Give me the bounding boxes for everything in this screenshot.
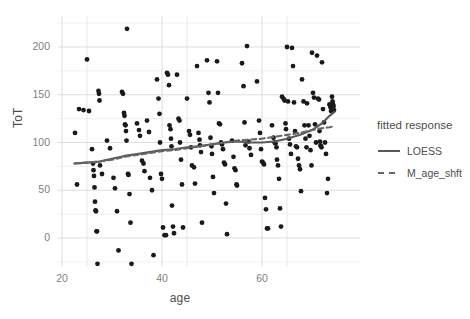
legend-item-loess[interactable]: LOESS <box>377 140 469 162</box>
data-point <box>147 130 152 135</box>
data-point <box>320 60 325 65</box>
data-point <box>319 145 324 150</box>
data-point <box>279 224 284 229</box>
data-point <box>212 191 217 196</box>
data-point <box>157 111 162 116</box>
data-point <box>205 58 210 63</box>
data-point <box>94 209 99 214</box>
data-point <box>126 173 131 178</box>
data-point <box>323 140 328 145</box>
data-point <box>305 101 310 106</box>
data-point <box>148 175 153 180</box>
x-tick-label: 60 <box>242 272 282 284</box>
data-point <box>123 123 128 128</box>
legend-title: fitted response <box>377 119 469 131</box>
data-point <box>296 156 301 161</box>
data-point <box>216 90 221 95</box>
data-point <box>317 97 322 102</box>
data-point <box>81 108 86 113</box>
data-point <box>160 176 165 181</box>
data-point <box>312 95 317 100</box>
data-point <box>128 220 133 225</box>
data-point <box>321 107 326 112</box>
data-point <box>286 99 291 104</box>
data-point <box>98 163 103 168</box>
dashed-line-icon <box>377 164 401 182</box>
data-point <box>179 157 184 162</box>
data-point <box>245 44 250 49</box>
data-point <box>257 118 262 123</box>
data-point <box>218 122 223 127</box>
data-point <box>93 199 98 204</box>
data-point <box>206 90 211 95</box>
data-point <box>307 133 312 138</box>
data-point <box>276 163 281 168</box>
data-point <box>121 91 126 96</box>
data-point <box>127 192 132 197</box>
data-point <box>233 168 238 173</box>
data-point <box>208 135 213 140</box>
data-point <box>288 142 293 147</box>
data-point <box>77 107 82 112</box>
data-point <box>314 140 319 145</box>
data-point <box>299 189 304 194</box>
data-point <box>138 133 143 138</box>
data-point <box>249 153 254 158</box>
legend-item-m-age-shft[interactable]: M_age_shft <box>377 162 469 184</box>
data-point <box>167 83 172 88</box>
data-point <box>95 229 100 234</box>
data-point <box>113 186 118 191</box>
data-point <box>100 172 105 177</box>
data-point <box>141 161 146 166</box>
data-point <box>196 131 201 136</box>
data-point <box>75 182 80 187</box>
data-point <box>137 128 142 133</box>
data-point <box>278 206 283 211</box>
data-point <box>326 176 331 181</box>
legend: fitted response LOESSM_age_shft <box>377 119 469 184</box>
data-point <box>170 203 175 208</box>
data-point <box>255 79 260 84</box>
data-point <box>308 148 313 153</box>
y-tick-label: 200 <box>22 40 50 52</box>
data-point <box>95 261 100 266</box>
fitted-line-layer <box>75 112 335 164</box>
data-point <box>172 231 177 236</box>
data-point <box>124 129 129 134</box>
data-point <box>116 248 121 253</box>
data-point <box>289 152 294 157</box>
data-point <box>145 118 150 123</box>
data-point <box>97 98 102 103</box>
solid-line-icon <box>377 142 401 160</box>
data-point <box>266 226 271 231</box>
data-point <box>168 127 173 132</box>
data-point <box>169 144 174 149</box>
x-tick-label: 20 <box>42 272 82 284</box>
data-point <box>108 146 113 151</box>
data-point <box>240 61 245 66</box>
scatter-plot-figure: ToT age 050100150200 204060 fitted respo… <box>0 0 470 319</box>
data-point <box>262 162 267 167</box>
data-point <box>90 147 95 152</box>
data-point <box>224 201 229 206</box>
data-point <box>243 143 248 148</box>
data-point <box>192 165 197 170</box>
y-tick-label: 100 <box>22 136 50 148</box>
data-point <box>181 225 186 230</box>
data-point <box>258 131 263 136</box>
data-point <box>292 100 297 105</box>
data-point <box>91 168 96 173</box>
legend-item-label: LOESS <box>407 145 442 157</box>
data-point <box>285 45 290 50</box>
data-point <box>284 127 289 132</box>
data-point <box>283 121 288 126</box>
data-point <box>188 132 193 137</box>
data-point <box>309 163 314 168</box>
data-point <box>142 169 147 174</box>
data-point <box>185 96 190 101</box>
data-point <box>247 146 252 151</box>
y-tick-label: 0 <box>22 231 50 243</box>
data-point <box>159 172 164 177</box>
data-point <box>156 96 161 101</box>
data-point <box>155 77 160 82</box>
